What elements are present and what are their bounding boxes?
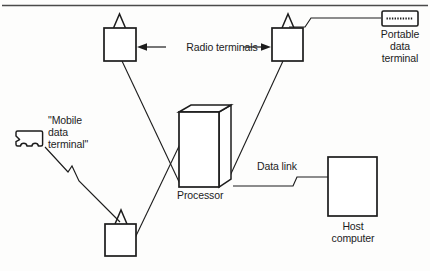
- processor-3d-box-icon: [179, 112, 219, 187]
- network-topology-diagram: Radio terminals Portable data terminal "…: [0, 0, 430, 271]
- radio-terminal-bottom[interactable]: [105, 210, 136, 256]
- radio-terminal-icon: [104, 28, 136, 61]
- processor-node[interactable]: [179, 105, 231, 187]
- processor-label: Processor: [177, 189, 247, 201]
- host-computer-node[interactable]: [328, 157, 377, 216]
- link-processor-host: [233, 177, 328, 186]
- host-computer-icon: [328, 157, 377, 216]
- host-computer-label: Host computer: [313, 220, 393, 244]
- link-portable-terminal-radio: [289, 18, 381, 27]
- vehicle-icon: [16, 131, 43, 146]
- mobile-data-terminal-node[interactable]: [16, 131, 43, 146]
- radio-terminals-label: Radio terminals: [167, 41, 277, 53]
- antenna-icon: [282, 14, 294, 28]
- link-bottom-rt-to-processor: [134, 140, 182, 240]
- data-link-label: Data link: [257, 160, 327, 172]
- mobile-data-terminal-label: "Mobile data terminal": [48, 114, 110, 151]
- radio-terminal-top-right[interactable]: [272, 14, 303, 61]
- radio-terminal-top-left[interactable]: [104, 14, 136, 61]
- antenna-icon: [114, 14, 126, 28]
- link-top-left-rt-to-processor: [122, 61, 181, 186]
- portable-data-terminal-label: Portable data terminal: [370, 28, 430, 65]
- link-mobile-terminal-radio: [45, 147, 120, 222]
- processor-side-face: [219, 105, 231, 187]
- radio-terminal-icon: [105, 224, 136, 256]
- portable-data-terminal-node[interactable]: [382, 11, 418, 26]
- antenna-icon: [115, 210, 127, 224]
